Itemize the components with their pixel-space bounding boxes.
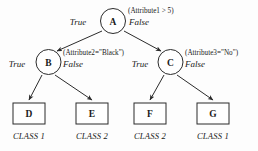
node-c-label: C <box>167 58 174 68</box>
leaf-f-label: F <box>147 109 153 119</box>
node-a-true-label: True <box>70 17 87 27</box>
leaf-d-class-label: CLASS 1 <box>13 131 45 141</box>
leaf-e-label: E <box>89 109 95 119</box>
node-b-true-label: True <box>9 59 26 69</box>
node-b-label: B <box>45 58 52 68</box>
node-a-label: A <box>110 17 117 27</box>
edge-a-to-b-true <box>57 31 102 51</box>
leaf-e-class-label: CLASS 2 <box>76 131 109 141</box>
node-a-false-label: False <box>128 17 149 27</box>
decision-tree-diagram: A (Attribute1 > 5) False True B (Attribu… <box>0 0 258 151</box>
node-b-test-label: (Attribute2="Black") <box>63 49 125 57</box>
node-c-false-label: False <box>184 59 205 69</box>
node-a-test-label: (Attribute1 > 5) <box>128 7 174 15</box>
decision-tree-canvas: A (Attribute1 > 5) False True B (Attribu… <box>0 0 258 151</box>
edge-c-to-f-true <box>150 75 164 100</box>
leaf-g-class-label: CLASS 1 <box>197 131 229 141</box>
leaf-d-label: D <box>26 109 33 119</box>
edge-b-to-e-false <box>55 75 92 100</box>
edge-b-to-d-true <box>29 75 42 100</box>
edge-c-to-g-false <box>177 75 213 100</box>
node-c-test-label: (Attribute3="No") <box>185 49 239 57</box>
leaf-g-label: G <box>209 109 217 119</box>
edge-a-to-c-false <box>124 31 161 51</box>
node-b-false-label: False <box>62 59 83 69</box>
leaf-f-class-label: CLASS 2 <box>134 131 167 141</box>
node-c-true-label: True <box>132 59 149 69</box>
